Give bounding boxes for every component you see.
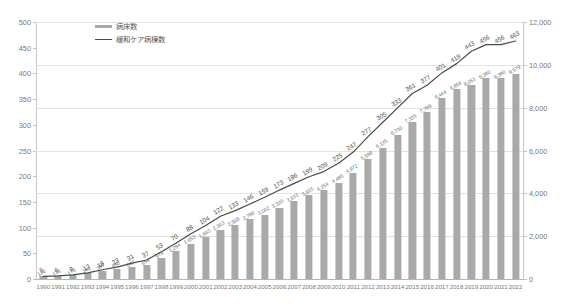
- left-axis-tick-label: 150: [1, 197, 31, 206]
- x-axis-tick-label: 2019: [464, 283, 478, 290]
- right-axis-tickmark: [524, 151, 527, 152]
- left-axis-tick-label: 400: [1, 69, 31, 78]
- combo-chart: 050100150200250300350400450500 02,0004,0…: [0, 0, 565, 308]
- right-axis-tick-label: 6,000: [529, 146, 563, 155]
- x-axis-tick-label: 2011: [347, 283, 360, 290]
- left-axis-tick-label: 500: [1, 18, 31, 27]
- left-axis-tick-label: 50: [1, 249, 31, 258]
- right-axis-tick-label: 12,000: [529, 18, 563, 27]
- x-axis-tick-label: 2022: [509, 283, 523, 290]
- x-axis-tick-label: 2007: [287, 283, 301, 290]
- x-axis-tick-label: 1992: [66, 283, 80, 290]
- left-axis-tick-label: 300: [1, 120, 31, 129]
- right-axis-tick-label: 0: [529, 275, 563, 284]
- left-axis-tick-label: 350: [1, 95, 31, 104]
- line-swatch-icon: [95, 39, 112, 40]
- x-axis-tick-label: 2004: [243, 283, 257, 290]
- right-axis-tickmark: [524, 108, 527, 109]
- left-axis-tick-label: 100: [1, 223, 31, 232]
- x-axis-tick-label: 2015: [405, 283, 419, 290]
- legend-item-beds: 病床数: [95, 22, 165, 31]
- x-axis-tick-label: 1991: [51, 283, 65, 290]
- right-axis-tickmark: [524, 279, 527, 280]
- x-axis-tick-label: 2018: [450, 283, 464, 290]
- legend-item-wards: 緩和ケア病棟数: [95, 35, 165, 44]
- x-axis-tick-label: 1996: [125, 283, 139, 290]
- right-axis-tick-label: 2,000: [529, 232, 563, 241]
- x-axis-tick-label: 2006: [273, 283, 287, 290]
- right-axis-tickmark: [524, 193, 527, 194]
- x-axis-tick-label: 2002: [214, 283, 228, 290]
- x-axis-tick-label: 2014: [391, 283, 405, 290]
- legend-label-wards: 緩和ケア病棟数: [116, 35, 165, 44]
- x-axis-line: [36, 279, 524, 280]
- x-axis-tick-label: 2005: [258, 283, 272, 290]
- chart-legend: 病床数 緩和ケア病棟数: [95, 22, 165, 47]
- x-axis-tick-label: 1990: [36, 283, 50, 290]
- x-axis-tick-label: 2016: [420, 283, 434, 290]
- x-axis-tick-label: 2008: [302, 283, 316, 290]
- left-axis-tick-label: 0: [1, 275, 31, 284]
- x-axis-tick-label: 2000: [184, 283, 198, 290]
- x-axis-tick-label: 1997: [140, 283, 154, 290]
- x-axis-tick-label: 1994: [96, 283, 110, 290]
- x-axis-tick-label: 2017: [435, 283, 449, 290]
- x-axis-tick-label: 1998: [155, 283, 169, 290]
- left-axis-tickmark: [33, 279, 36, 280]
- x-axis-tick-label: 2012: [361, 283, 375, 290]
- x-axis-tick-label: 2001: [199, 283, 213, 290]
- bar-swatch-icon: [95, 25, 112, 29]
- x-axis-tick-label: 2021: [494, 283, 508, 290]
- right-axis-tick-label: 4,000: [529, 189, 563, 198]
- right-axis-tick-label: 10,000: [529, 60, 563, 69]
- x-axis-tick-label: 2009: [317, 283, 331, 290]
- right-axis-tickmark: [524, 236, 527, 237]
- x-axis-tick-label: 1999: [169, 283, 183, 290]
- left-axis-tick-label: 200: [1, 172, 31, 181]
- x-axis-tick-label: 2020: [479, 283, 493, 290]
- x-axis-tick-label: 1993: [81, 283, 95, 290]
- right-axis-tickmark: [524, 22, 527, 23]
- x-axis-tick-label: 2003: [228, 283, 242, 290]
- right-axis-tickmark: [524, 65, 527, 66]
- left-axis-tick-label: 250: [1, 146, 31, 155]
- x-axis-tick-label: 2010: [332, 283, 346, 290]
- right-axis-tick-label: 8,000: [529, 103, 563, 112]
- x-axis-labels: 1990199119921993199419951996199719981999…: [36, 283, 524, 303]
- plot-area: 1201331732623974805476549741,2941,6531,9…: [36, 22, 523, 279]
- line-path: [43, 41, 515, 276]
- legend-label-beds: 病床数: [116, 22, 137, 31]
- left-axis-tick-label: 450: [1, 43, 31, 52]
- x-axis-tick-label: 1995: [110, 283, 124, 290]
- x-axis-tick-label: 2013: [376, 283, 390, 290]
